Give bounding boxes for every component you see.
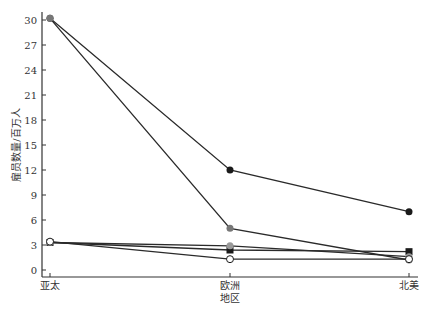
series-line <box>47 15 413 264</box>
y-tick-label: 21 <box>24 90 37 101</box>
y-tick-label: 12 <box>24 165 37 176</box>
y-tick-label: 3 <box>31 240 37 251</box>
data-point-marker <box>227 167 234 174</box>
y-tick-label: 24 <box>24 65 37 76</box>
x-tick-label: 亚太 <box>40 279 60 291</box>
y-axis-title: 雇员数量/百万人 <box>10 108 22 181</box>
y-tick-label: 30 <box>24 15 37 26</box>
series-line <box>47 15 413 215</box>
y-tick-label: 15 <box>24 140 37 151</box>
data-point-marker <box>227 225 234 232</box>
y-axis: 036912151821242730 <box>24 12 46 277</box>
x-tick-label: 欧洲 <box>220 280 240 291</box>
x-tick-label: 北美 <box>399 279 419 291</box>
data-point-marker <box>47 238 54 245</box>
data-point-marker <box>406 256 413 263</box>
y-tick-label: 6 <box>31 215 37 226</box>
y-tick-label: 0 <box>31 265 37 276</box>
line-chart: 036912151821242730 亚太欧洲北美 雇员数量/百万人 地区 <box>0 0 430 312</box>
data-point-marker <box>47 15 54 22</box>
y-tick-label: 18 <box>24 115 37 126</box>
y-tick-label: 27 <box>24 40 37 51</box>
data-point-marker <box>227 242 234 249</box>
y-tick-label: 9 <box>31 190 37 201</box>
data-point-marker <box>227 256 234 263</box>
x-axis-title: 地区 <box>220 292 240 304</box>
series-layer <box>47 15 413 264</box>
x-axis: 亚太欧洲北美 <box>40 273 419 291</box>
data-point-marker <box>406 208 413 215</box>
